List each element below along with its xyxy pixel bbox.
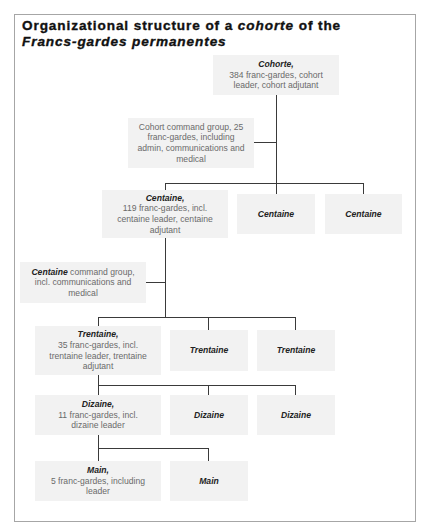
- node-dizaine-main: Dizaine, 11 franc-gardes, incl. dizaine …: [35, 395, 161, 435]
- diagram-title: Organizational structure of a cohorte of…: [22, 18, 382, 50]
- node-main-2-title: Main: [199, 476, 219, 487]
- node-trentaine-main: Trentaine, 35 franc-gardes, incl. trenta…: [35, 326, 161, 375]
- node-cohorte: Cohorte, 384 franc-gardes, cohort leader…: [213, 55, 339, 95]
- node-cohort-command-group: Cohort command group, 25 franc-gardes, i…: [128, 118, 254, 168]
- title-italic-francs-gardes: Francs-gardes permanentes: [22, 34, 227, 49]
- node-main-main-desc: 5 franc-gardes, including leader: [45, 476, 151, 497]
- connector-centaine-down: [165, 238, 166, 318]
- node-main-main: Main, 5 franc-gardes, including leader: [35, 461, 161, 501]
- connector-dizaine-3: [295, 385, 296, 395]
- node-dizaine-2: Dizaine: [170, 395, 248, 435]
- title-italic-cohorte: cohorte: [238, 18, 294, 33]
- title-text-1: Organizational structure of a: [22, 18, 238, 33]
- connector-trentaine-3: [295, 317, 296, 330]
- connector-main-bar: [98, 448, 209, 449]
- node-centaine-main-title: Centaine,: [146, 193, 185, 204]
- node-centaine-command-desc: Centaine command group, incl. communicat…: [27, 267, 139, 299]
- connector-cohort-command: [254, 142, 277, 143]
- node-centaine-command-head: Centaine: [31, 267, 67, 277]
- node-dizaine-2-title: Dizaine: [194, 410, 224, 421]
- node-trentaine-2: Trentaine: [170, 330, 248, 371]
- node-centaine-2-title: Centaine: [258, 209, 294, 220]
- node-trentaine-2-title: Trentaine: [190, 345, 229, 356]
- connector-trentaine-bar: [98, 317, 296, 318]
- node-centaine-main-desc: 119 franc-gardes, incl. centaine leader,…: [113, 203, 217, 235]
- connector-centaine-command: [146, 282, 166, 283]
- node-dizaine-main-title: Dizaine,: [82, 399, 114, 410]
- node-dizaine-main-desc: 11 franc-gardes, incl. dizaine leader: [53, 410, 143, 431]
- connector-centaine-bar: [165, 183, 364, 184]
- node-centaine-3-title: Centaine: [345, 209, 381, 220]
- node-main-main-title: Main,: [87, 465, 109, 476]
- connector-main-2: [208, 448, 209, 461]
- node-trentaine-main-desc: 35 franc-gardes, incl. trentaine leader,…: [45, 340, 151, 372]
- connector-trentaine-2: [208, 317, 209, 330]
- node-cohorte-desc: 384 franc-gardes, cohort leader, cohort …: [226, 70, 326, 91]
- node-dizaine-3: Dizaine: [257, 395, 335, 435]
- connector-dizaine-bar: [98, 385, 296, 386]
- title-text-2: of the: [294, 18, 341, 33]
- connector-dizaine-2: [208, 385, 209, 395]
- node-main-2: Main: [170, 461, 248, 501]
- node-trentaine-3: Trentaine: [257, 330, 335, 371]
- node-trentaine-main-title: Trentaine,: [78, 329, 119, 340]
- node-cohorte-title: Cohorte,: [258, 59, 293, 70]
- node-dizaine-3-title: Dizaine: [281, 410, 311, 421]
- node-centaine-2: Centaine: [237, 194, 315, 234]
- node-centaine-3: Centaine: [325, 194, 402, 234]
- connector-trentaine-1: [98, 317, 99, 326]
- node-cohort-command-desc: Cohort command group, 25 franc-gardes, i…: [137, 122, 245, 164]
- node-centaine-command-group: Centaine command group, incl. communicat…: [20, 262, 146, 303]
- connector-cohorte-down: [276, 95, 277, 184]
- node-centaine-main: Centaine, 119 franc-gardes, incl. centai…: [102, 190, 228, 238]
- node-trentaine-3-title: Trentaine: [277, 345, 316, 356]
